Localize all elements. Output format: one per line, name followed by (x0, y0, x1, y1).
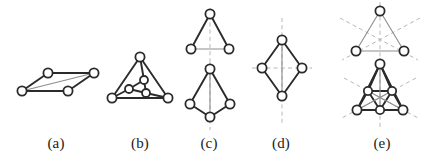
graph-node-d2 (257, 63, 266, 72)
graph-node-c3 (224, 44, 233, 53)
graph-node-e1 (375, 6, 384, 15)
graph-node-b5 (125, 85, 133, 93)
graph-canvas-a (8, 0, 108, 133)
panel-c-mirror-symmetry-pair (181, 0, 239, 133)
graph-node-b2 (107, 93, 116, 102)
graph-node-d4 (277, 91, 286, 100)
graph-edge-e-e1-e2 (356, 11, 380, 51)
graph-node-b6 (142, 89, 150, 97)
panel-e-threefold-symmetry-pair (332, 0, 428, 133)
caption-e: (e) (352, 135, 412, 152)
panel-a-parallelogram-graph (8, 0, 108, 133)
caption-row: (a)(b)(c)(d)(e) (0, 133, 431, 167)
graph-node-c7 (205, 112, 214, 121)
panel-b-nested-triangle-graph (100, 0, 180, 133)
graph-edge-e-e1-e3 (380, 11, 404, 51)
graph-node-c5 (185, 99, 194, 108)
graph-node-c6 (225, 99, 234, 108)
graph-node-e8 (388, 87, 396, 95)
graph-canvas-b (100, 0, 180, 133)
graph-node-c2 (186, 44, 195, 53)
graph-edge-c-c1-c3 (210, 14, 229, 49)
graph-edge-c-c1-c2 (191, 14, 210, 49)
graph-node-d3 (297, 63, 306, 72)
graph-node-c1 (205, 9, 214, 18)
caption-d: (d) (251, 135, 311, 152)
graph-edge-c-c4-c6 (210, 69, 230, 104)
graph-node-b3 (163, 93, 172, 102)
graph-canvas-c (181, 0, 239, 133)
graph-node-e2 (351, 46, 360, 55)
graph-node-c4 (205, 64, 214, 73)
graph-node-a2 (43, 68, 52, 77)
graph-node-a1 (17, 86, 26, 95)
figure-root: (a)(b)(c)(d)(e) (0, 0, 431, 167)
graph-node-e5 (352, 105, 361, 114)
panel-d-rhombus-two-mirrors (250, 0, 314, 133)
graph-node-b1 (135, 52, 144, 61)
graph-edge-c-c4-c5 (190, 69, 210, 104)
graph-node-d1 (277, 35, 286, 44)
graph-node-a3 (89, 68, 98, 77)
graph-node-e4 (375, 59, 384, 68)
graph-node-e6 (398, 105, 407, 114)
caption-b: (b) (110, 135, 170, 152)
graph-edge-a-a1-a3 (22, 73, 94, 91)
graph-node-e7 (364, 87, 372, 95)
graph-canvas-d (250, 0, 314, 133)
graph-node-b4 (140, 76, 148, 84)
graph-canvas-e (332, 0, 428, 133)
graph-node-a4 (63, 86, 72, 95)
caption-c: (c) (179, 135, 239, 152)
graph-node-e3 (399, 46, 408, 55)
graph-node-e9 (376, 106, 384, 114)
caption-a: (a) (26, 135, 86, 152)
